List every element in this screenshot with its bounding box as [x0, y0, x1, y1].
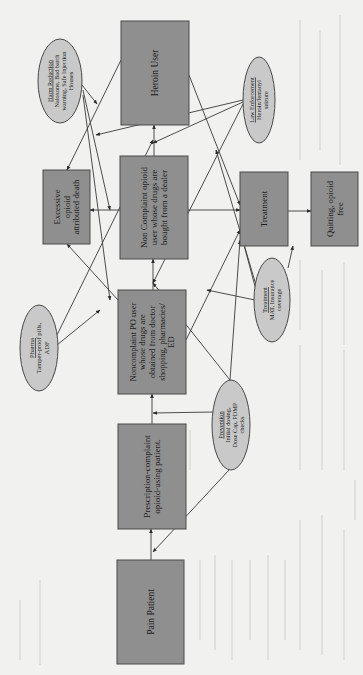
node-excessive-death: Excessiveopioidattributed death — [43, 170, 90, 244]
node-label-line: bought from a dealer — [159, 170, 169, 245]
node-heroin-user: Heroin User — [121, 21, 189, 125]
node-label-line: MAT, Insurance — [268, 280, 275, 321]
node-harm-reduction: Harm ReductionNaloxone, Bad batchwarning… — [38, 39, 82, 123]
edge-treatment-policy-to-quitting — [288, 246, 293, 268]
node-label-line: free — [335, 202, 345, 216]
node-label-line: checks — [238, 416, 245, 434]
node-quitting: Quitting, opioidfree — [311, 172, 358, 246]
edge-heroin-user-to-treatment — [189, 75, 240, 205]
opioid-pathway-diagram: Heroin UserNon Complaint opioiduser whos… — [0, 0, 363, 675]
node-noncomplaint-po: Noncomplaint PO userwhose drugs areobtai… — [118, 290, 186, 394]
node-label-group: Treatment — [259, 190, 269, 227]
node-treatment-policy: TreatmentMAT, Insurancecoverage — [254, 258, 290, 342]
node-label-line: whose drugs are — [137, 314, 147, 370]
node-label-line: Tamper-proof pills, — [35, 322, 42, 373]
node-label-group: Non Complaint opioiduser whose drugs are… — [139, 167, 169, 249]
node-title: Treatment — [261, 287, 268, 313]
node-prescription: Prescription-complaintopioid-using patie… — [118, 424, 186, 529]
node-title: Law Enforcement — [248, 77, 255, 123]
node-label-line: Houses — [67, 71, 74, 90]
node-label-line: Heroin/fentanyl — [255, 80, 262, 120]
node-label-line: opioid — [62, 195, 72, 218]
node-treatment: Treatment — [240, 172, 288, 246]
node-label-line: Noncomplaint PO user — [128, 302, 138, 381]
edge-prevention-to-prescription — [153, 412, 213, 413]
node-pain-patient: Pain Patient — [117, 560, 184, 664]
node-label-group: Prescription-complaintopioid-using patie… — [142, 435, 162, 518]
node-label-group: Pain Patient — [146, 589, 156, 635]
node-label-line: seizure — [262, 91, 269, 109]
edge-prevention-to-treatment — [230, 240, 240, 380]
node-pharma: PharmaTamper-proof pills,ADF — [20, 305, 58, 391]
node-label-line: ED — [166, 336, 176, 347]
node-law-enforcement: Law EnforcementHeroin/fentanylseizure — [243, 57, 275, 143]
node-title: Pharma — [28, 338, 35, 358]
node-label-line: warning, Safe Injection — [60, 51, 67, 111]
node-label-line: opioid-using patient. — [152, 439, 162, 514]
node-non-complaint-dealer: Non Complaint opioiduser whose drugs are… — [120, 156, 188, 259]
node-label-line: Treatment — [259, 190, 269, 227]
node-label-line: Prescription-complaint — [142, 435, 152, 518]
node-prevention: PreventionInitial dosing,Dose Cap, PDMPc… — [212, 380, 250, 470]
node-label-line: Excessive — [52, 189, 62, 224]
edge-noncomplaint-po-to-treatment — [186, 230, 240, 340]
node-label-line: Heroin User — [150, 49, 160, 97]
node-label-line: shopping, pharmacies/ — [157, 303, 167, 381]
node-label-line: Pain Patient — [146, 589, 156, 635]
edge-pharma-to-noncomplaint-po — [57, 310, 100, 345]
node-label-line: attributed death — [71, 179, 81, 235]
node-label-line: Naloxone, Bad batch — [53, 54, 60, 108]
node-label-line: Initial dosing, — [224, 407, 231, 442]
node-title: Harm Reduction — [46, 59, 53, 102]
node-label-line: ADF — [43, 341, 50, 354]
edge-noncomplaint-po-to-excessive-death — [67, 244, 118, 300]
node-label-line: Dose Cap, PDMP — [231, 402, 238, 447]
node-label-line: coverage — [275, 288, 282, 311]
node-label-line: Non Complaint opioid — [139, 167, 149, 249]
node-label-line: obtained from doctor — [147, 306, 157, 379]
node-label-line: Quitting, opioid — [325, 180, 335, 237]
node-label-line: user whose drugs are — [149, 170, 159, 246]
node-label-group: Heroin User — [150, 49, 160, 97]
edge-treatment-policy-to-noncomplaint-po — [207, 290, 255, 300]
nodes-layer: Heroin UserNon Complaint opioiduser whos… — [20, 21, 358, 664]
node-title: Prevention — [217, 411, 224, 439]
